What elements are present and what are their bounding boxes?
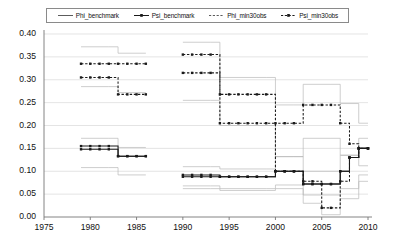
y-tick-0-40: 0.40 <box>6 28 36 38</box>
legend-item-psi-benchmark: Psi_benchmark <box>133 11 195 20</box>
y-tick-0-10: 0.10 <box>6 165 36 175</box>
x-tick-1975: 1975 <box>24 222 64 232</box>
legend-swatch-dashed-marker-icon <box>280 11 297 20</box>
legend-label-psi-benchmark: Psi_benchmark <box>152 12 195 19</box>
y-tick-0-30: 0.30 <box>6 74 36 84</box>
gridlines <box>44 34 368 194</box>
legend-swatch-solid-marker-icon <box>133 11 150 20</box>
legend-swatch-dashed-plain-icon <box>208 11 225 20</box>
x-tick-2000: 2000 <box>255 222 295 232</box>
axis-lines <box>44 30 372 220</box>
legend-item-psi-min30obs: Psi_min30obs <box>280 11 338 20</box>
x-tick-1990: 1990 <box>163 222 203 232</box>
legend-item-phi-min30obs: Phi_min30obs <box>208 11 266 20</box>
y-tick-0-35: 0.35 <box>6 51 36 61</box>
y-tick-0-25: 0.25 <box>6 97 36 107</box>
chart-container: Phi_benchmark Psi_benchmark Phi_min30obs… <box>0 0 393 246</box>
chart-legend: Phi_benchmark Psi_benchmark Phi_min30obs… <box>46 8 349 23</box>
legend-label-phi-benchmark: Phi_benchmark <box>76 12 119 19</box>
y-tick-0-15: 0.15 <box>6 142 36 152</box>
legend-label-psi-min30obs: Psi_min30obs <box>299 12 338 19</box>
y-tick-0-20: 0.20 <box>6 120 36 130</box>
chart-plot-area <box>0 0 393 246</box>
legend-item-phi-benchmark: Phi_benchmark <box>57 11 119 20</box>
y-tick-0-00: 0.00 <box>6 211 36 221</box>
y-tick-0-05: 0.05 <box>6 188 36 198</box>
x-tick-2010: 2010 <box>348 222 388 232</box>
x-tick-1995: 1995 <box>209 222 249 232</box>
x-tick-1985: 1985 <box>117 222 157 232</box>
x-tick-2005: 2005 <box>302 222 342 232</box>
confidence-band-lines <box>81 42 368 214</box>
data-series-lines <box>80 53 369 209</box>
legend-label-phi-min30obs: Phi_min30obs <box>227 12 266 19</box>
x-tick-1980: 1980 <box>70 222 110 232</box>
legend-swatch-solid-plain-icon <box>57 11 74 20</box>
